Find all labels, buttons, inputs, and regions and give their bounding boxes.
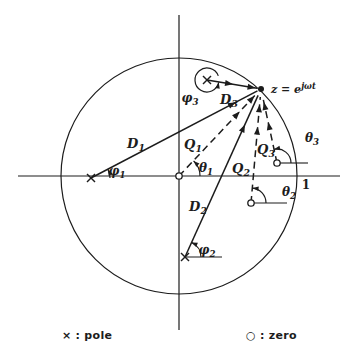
label-D1: D1 [126, 136, 145, 153]
pole-legend-label: : pole [76, 329, 113, 342]
label-theta2: θ2 [282, 185, 296, 201]
pole-zero-diagram: D1D2D3Q1Q2Q3φ1φ2φ3θ1θ2θ3z = ejωt1 [0, 0, 351, 357]
zero-legend-label: : zero [260, 329, 297, 342]
label-z-point: z = ejωt [270, 81, 316, 97]
legend-zero-entry: ○: zero [246, 329, 297, 342]
label-D3: D3 [219, 92, 238, 109]
label-Q1: Q1 [184, 137, 202, 154]
legend-pole-entry: ×: pole [62, 329, 112, 342]
zero-3-mark [274, 160, 280, 166]
pole-zero-figure: D1D2D3Q1Q2Q3φ1φ2φ3θ1θ2θ3z = ejωt1 ×: pol… [0, 0, 351, 357]
vector-D3-arrowhead [225, 80, 233, 86]
label-Q2: Q2 [232, 161, 250, 178]
zero-2-mark [248, 200, 254, 206]
vector-D2-arrowhead [239, 124, 245, 133]
label-phi3: φ3 [182, 91, 199, 107]
zero-symbol: ○ [246, 329, 256, 342]
label-theta1: θ1 [199, 161, 213, 177]
zero-1-mark [176, 173, 182, 179]
label-phi2: φ2 [199, 243, 216, 259]
z-point-dot [258, 86, 264, 92]
label-phi1: φ1 [109, 164, 126, 180]
vector-Q1 [179, 93, 257, 176]
label-D2: D2 [188, 199, 207, 216]
pole-symbol: × [62, 329, 72, 342]
label-theta3: θ3 [305, 131, 319, 147]
vector-Q1-arrowhead [232, 112, 240, 120]
vector-Q1-arrowhead [247, 96, 255, 104]
arc-theta2 [253, 188, 266, 203]
label-unit-radius: 1 [302, 178, 310, 192]
label-Q3: Q3 [257, 142, 275, 159]
